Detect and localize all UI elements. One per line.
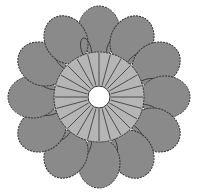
crochet-flower-diagram [0,0,199,194]
center-hole [88,86,110,108]
